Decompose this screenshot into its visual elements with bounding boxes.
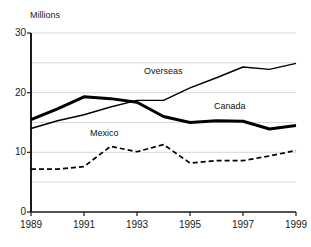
line-chart: Millions 0102030 19891991199319951997199… <box>0 0 311 247</box>
y-axis-tick-label: 20 <box>2 87 26 98</box>
gridlines <box>31 33 296 182</box>
x-axis-tick-label: 1997 <box>223 219 263 230</box>
x-axis-tick-label: 1993 <box>117 219 157 230</box>
chart-plot-area <box>0 0 311 247</box>
x-axis-tick-label: 1991 <box>64 219 104 230</box>
x-axis-tick-label: 1989 <box>11 219 51 230</box>
y-axis-tick-label: 0 <box>2 206 26 217</box>
x-axis-tick-label: 1999 <box>276 219 311 230</box>
y-axis-tick-label: 30 <box>2 27 26 38</box>
y-axis-tick-label: 10 <box>2 146 26 157</box>
series-label-mexico: Mexico <box>90 128 119 138</box>
series-line-canada <box>31 97 296 129</box>
x-axis-tick-label: 1995 <box>170 219 210 230</box>
series-label-canada: Canada <box>214 101 246 111</box>
series-line-mexico <box>31 145 296 169</box>
series-label-overseas: Overseas <box>144 66 183 76</box>
